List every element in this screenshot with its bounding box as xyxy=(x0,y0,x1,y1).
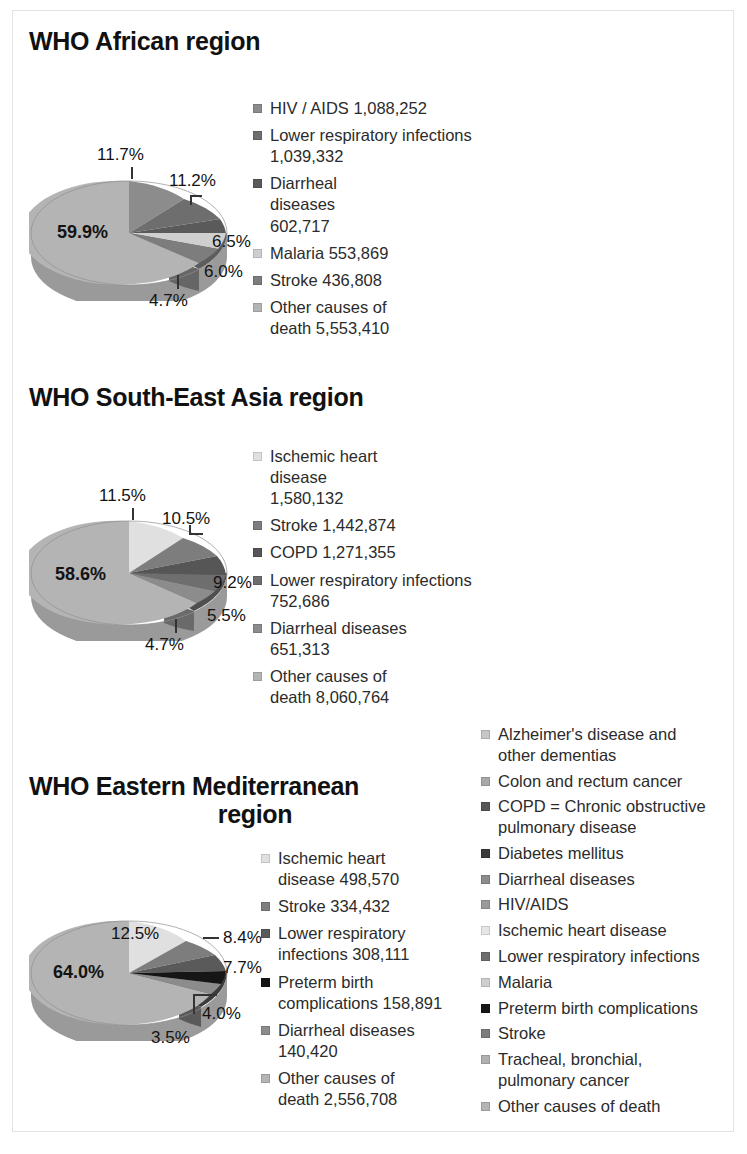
legend-item[interactable]: Lower respiratory infections 752,686 xyxy=(253,570,473,612)
pct-label-african-1: 11.7% xyxy=(97,145,144,165)
key-item[interactable]: Alzheimer's disease and other dementias xyxy=(481,724,731,766)
legend-item[interactable]: COPD 1,271,355 xyxy=(253,542,473,563)
legend-swatch-icon xyxy=(253,249,262,258)
legend-item-label: Other causes of death 8,060,764 xyxy=(270,666,395,708)
key-swatch-icon xyxy=(481,1055,490,1064)
legend-swatch-icon xyxy=(261,902,270,911)
legend-item[interactable]: Lower respiratory infections 308,111 xyxy=(261,923,491,965)
key-item[interactable]: Malaria xyxy=(481,972,731,993)
key-swatch-icon xyxy=(481,849,490,858)
leader-line-sea-1 xyxy=(132,508,134,520)
pct-label-african-5: 4.7% xyxy=(149,291,188,311)
legend-swatch-icon xyxy=(253,303,262,312)
key-swatch-icon xyxy=(481,1102,490,1111)
key-item-label: Ischemic heart disease xyxy=(498,920,667,941)
key-item-label: HIV/AIDS xyxy=(498,894,569,915)
leader-line-sea-2 xyxy=(189,533,203,535)
disease-key-panel: Alzheimer's disease and other dementias … xyxy=(481,724,731,1122)
key-item[interactable]: Preterm birth complications xyxy=(481,998,731,1019)
leader-line-african-2b xyxy=(190,195,192,205)
key-item-label: Diabetes mellitus xyxy=(498,843,624,864)
legend-item[interactable]: Other causes of death 8,060,764 xyxy=(253,666,473,708)
pct-label-emr-4: 4.0% xyxy=(202,1004,241,1024)
key-item-label: Colon and rectum cancer xyxy=(498,771,682,792)
legend-swatch-icon xyxy=(253,624,262,633)
legend-item-label: Diarrheal diseases 651,313 xyxy=(270,618,450,660)
pct-label-sea-2: 10.5% xyxy=(162,509,210,529)
key-item-label: Malaria xyxy=(498,972,552,993)
key-item[interactable]: HIV/AIDS xyxy=(481,894,731,915)
key-item[interactable]: Stroke xyxy=(481,1023,731,1044)
key-item[interactable]: Ischemic heart disease xyxy=(481,920,731,941)
key-item[interactable]: Tracheal, bronchial, pulmonary cancer xyxy=(481,1049,731,1091)
legend-item[interactable]: Stroke 1,442,874 xyxy=(253,515,473,536)
legend-swatch-icon xyxy=(253,452,262,461)
key-item[interactable]: Colon and rectum cancer xyxy=(481,771,731,792)
region-block-south-east-asia: WHO South-East Asia region xyxy=(27,376,717,726)
legend-item-label: Stroke 436,808 xyxy=(270,270,382,291)
legend-item[interactable]: Diarrheal diseases 602,717 xyxy=(253,173,473,236)
legend-item-label: Diarrheal diseases 602,717 xyxy=(270,173,390,236)
key-item-label: Preterm birth complications xyxy=(498,998,698,1019)
leader-line-emr-2 xyxy=(203,937,219,939)
legend-item[interactable]: HIV / AIDS 1,088,252 xyxy=(253,98,473,119)
pct-label-sea-4: 5.5% xyxy=(207,606,246,626)
region-block-african: WHO African region xyxy=(27,19,717,369)
legend-swatch-icon xyxy=(261,1074,270,1083)
key-swatch-icon xyxy=(481,802,490,811)
key-item-label: Other causes of death xyxy=(498,1096,660,1117)
legend-swatch-icon xyxy=(253,104,262,113)
legend-item-label: HIV / AIDS 1,088,252 xyxy=(270,98,427,119)
legend-swatch-icon xyxy=(253,548,262,557)
page-title-african: WHO African region xyxy=(29,27,260,55)
leader-line-african-5 xyxy=(177,275,179,289)
pct-label-african-2: 11.2% xyxy=(169,171,216,191)
legend-item[interactable]: Stroke 334,432 xyxy=(261,896,491,917)
legend-item[interactable]: Preterm birth complications 158,891 xyxy=(261,972,491,1014)
key-item-label: Diarrheal diseases xyxy=(498,869,635,890)
legend-item[interactable]: Diarrheal diseases 140,420 xyxy=(261,1020,491,1062)
legend-swatch-icon xyxy=(253,672,262,681)
page-title-line-2: region xyxy=(29,800,481,828)
legend-item-label: Preterm birth complications 158,891 xyxy=(278,972,446,1014)
legend-african: HIV / AIDS 1,088,252 Lower respiratory i… xyxy=(253,98,473,345)
legend-item[interactable]: Ischemic heart disease 498,570 xyxy=(261,848,491,890)
legend-item-label: COPD 1,271,355 xyxy=(270,542,396,563)
page-frame: WHO African region xyxy=(12,10,734,1132)
page-title-line-1: WHO Eastern Mediterranean xyxy=(29,772,481,800)
key-item-label: COPD = Chronic obstructive pulmonary dis… xyxy=(498,796,731,838)
key-item[interactable]: Other causes of death xyxy=(481,1096,731,1117)
leader-line-sea-5 xyxy=(175,619,177,633)
key-item[interactable]: Diabetes mellitus xyxy=(481,843,731,864)
legend-item[interactable]: Malaria 553,869 xyxy=(253,243,473,264)
key-item-label: Lower respiratory infections xyxy=(498,946,700,967)
key-item[interactable]: Lower respiratory infections xyxy=(481,946,731,967)
key-swatch-icon xyxy=(481,730,490,739)
legend-item[interactable]: Diarrheal diseases 651,313 xyxy=(253,618,473,660)
legend-item-label: Ischemic heart disease 498,570 xyxy=(278,848,403,890)
legend-item[interactable]: Other causes of death 2,556,708 xyxy=(261,1068,491,1110)
legend-swatch-icon xyxy=(261,978,270,987)
legend-item-label: Other causes of death 5,553,410 xyxy=(270,297,395,339)
legend-item[interactable]: Lower respiratory infections 1,039,332 xyxy=(253,125,473,167)
page-title-south-east-asia: WHO South-East Asia region xyxy=(29,383,363,411)
legend-item-label: Lower respiratory infections 308,111 xyxy=(278,923,438,965)
key-item-label: Stroke xyxy=(498,1023,546,1044)
legend-item-label: Lower respiratory infections 752,686 xyxy=(270,570,473,612)
key-item[interactable]: Diarrheal diseases xyxy=(481,869,731,890)
pct-label-emr-1: 12.5% xyxy=(111,924,159,944)
legend-swatch-icon xyxy=(261,929,270,938)
legend-item[interactable]: Stroke 436,808 xyxy=(253,270,473,291)
legend-item[interactable]: Ischemic heart disease 1,580,132 xyxy=(253,446,473,509)
key-swatch-icon xyxy=(481,875,490,884)
pct-label-african-4: 6.0% xyxy=(204,262,243,282)
legend-item-label: Ischemic heart disease 1,580,132 xyxy=(270,446,400,509)
legend-swatch-icon xyxy=(253,276,262,285)
legend-south-east-asia: Ischemic heart disease 1,580,132 Stroke … xyxy=(253,446,473,714)
key-item[interactable]: COPD = Chronic obstructive pulmonary dis… xyxy=(481,796,731,838)
legend-swatch-icon xyxy=(253,576,262,585)
legend-eastern-mediterranean: Ischemic heart disease 498,570 Stroke 33… xyxy=(261,848,491,1116)
key-swatch-icon xyxy=(481,978,490,987)
legend-swatch-icon xyxy=(253,179,262,188)
legend-item[interactable]: Other causes of death 5,553,410 xyxy=(253,297,473,339)
